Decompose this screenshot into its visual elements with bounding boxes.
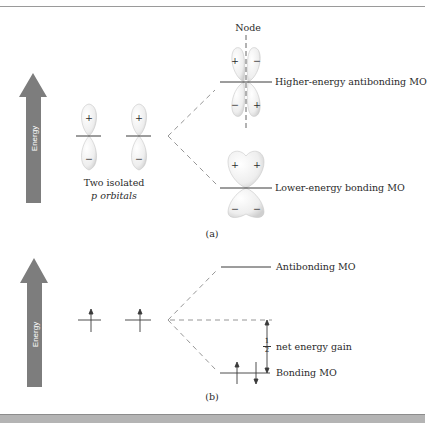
- gain-fraction-denominator: 2: [265, 346, 269, 354]
- energy-label-a: Energy: [30, 119, 39, 159]
- gain-fraction-numerator: 1: [265, 337, 269, 345]
- net-energy-gain-label: net energy gain: [276, 342, 352, 352]
- sign-isolated-right-bottom: −: [135, 154, 143, 164]
- bonding-mo-label-a: Lower-energy bonding MO: [275, 183, 405, 193]
- isolated-label-line1: Two isolated: [84, 178, 145, 188]
- correlation-lines-b: [168, 271, 272, 370]
- sign-bond-top-right: +: [253, 160, 261, 170]
- sign-anti-top-left: +: [231, 56, 239, 66]
- sign-isolated-left-bottom: −: [85, 154, 93, 164]
- bonding-level-b: [220, 362, 270, 384]
- bottom-border: [0, 414, 425, 423]
- node-label: Node: [235, 23, 261, 33]
- sign-isolated-right-top: +: [135, 113, 143, 123]
- caption-b: (b): [205, 392, 219, 402]
- sign-bond-top-left: +: [231, 160, 239, 170]
- antibonding-mo-label-b: Antibonding MO: [276, 262, 356, 272]
- caption-a: (a): [205, 229, 218, 239]
- antibonding-mo-orbital: [220, 35, 272, 128]
- antibonding-mo-label-a: Higher-energy antibonding MO: [275, 77, 427, 87]
- sign-anti-bottom-left: −: [231, 100, 239, 110]
- correlation-lines-a: [168, 90, 218, 186]
- sign-anti-bottom-right: +: [253, 100, 261, 110]
- sign-anti-top-right: −: [253, 56, 261, 66]
- isolated-label-line2: p orbitals: [91, 191, 137, 201]
- sign-isolated-left-top: +: [85, 113, 93, 123]
- bonding-mo-label-b: Bonding MO: [276, 368, 337, 378]
- gain-fraction: 1 2: [263, 338, 271, 354]
- energy-label-b: Energy: [31, 315, 40, 355]
- sign-bond-bottom-left: −: [231, 204, 239, 214]
- sign-bond-bottom-right: −: [253, 204, 261, 214]
- bonding-mo-orbital: [220, 151, 272, 217]
- isolated-levels-b: [78, 309, 151, 332]
